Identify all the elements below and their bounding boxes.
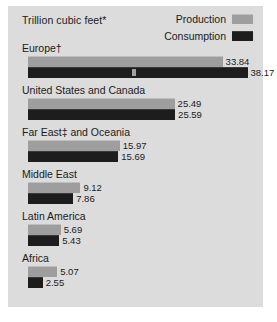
chart-group: Middle East9.127.86: [8, 168, 263, 204]
bar-production: [28, 98, 175, 109]
chart-header: Trillion cubic feet* Production Consumpt…: [8, 6, 263, 42]
chart-bar-row: 25.49: [8, 98, 263, 109]
legend-swatch-consumption-icon: [232, 31, 253, 41]
chart-group-label: Africa: [22, 252, 263, 264]
chart-group-label: Middle East: [22, 168, 263, 180]
chart-group-label: Far East‡ and Oceania: [22, 126, 263, 138]
chart-group: Africa5.072.55: [8, 252, 263, 288]
chart-group: Latin America5.695.43: [8, 210, 263, 246]
bar-value-label: 5.43: [62, 235, 81, 246]
bar-value-label: 25.49: [178, 98, 202, 109]
chart-bar-row: 15.97: [8, 140, 263, 151]
bar-value-label: 2.55: [46, 277, 65, 288]
bar-consumption: [28, 235, 59, 246]
bar-production: [28, 266, 57, 277]
chart-group-label: Europe†: [22, 42, 263, 54]
legend-item-production: Production: [128, 11, 253, 26]
bar-consumption: [28, 67, 248, 78]
chart-panel: Trillion cubic feet* Production Consumpt…: [8, 6, 263, 307]
legend-item-consumption: Consumption: [128, 28, 253, 43]
chart-bar-row: 5.69: [8, 224, 263, 235]
bar-value-label: 7.86: [76, 193, 95, 204]
bar-value-label: 38.17: [251, 67, 275, 78]
bar-consumption: [28, 151, 118, 162]
scan-artifact-speck: [132, 69, 136, 76]
legend-label-consumption: Consumption: [164, 30, 226, 42]
bar-production: [28, 140, 120, 151]
bar-consumption: [28, 277, 43, 288]
chart-group-label: Latin America: [22, 210, 263, 222]
bar-consumption: [28, 109, 175, 120]
chart-bar-row: 38.17: [8, 67, 263, 78]
bar-value-label: 5.07: [60, 266, 79, 277]
bar-production: [28, 56, 223, 67]
chart-plot-area: Europe†33.8438.17United States and Canad…: [8, 42, 263, 294]
bar-value-label: 25.59: [178, 109, 202, 120]
chart-bar-row: 5.43: [8, 235, 263, 246]
chart-bar-row: 15.69: [8, 151, 263, 162]
chart-bar-row: 7.86: [8, 193, 263, 204]
legend-swatch-production-icon: [232, 14, 253, 24]
bar-production: [28, 224, 61, 235]
bar-value-label: 15.97: [123, 140, 147, 151]
bar-value-label: 33.84: [226, 56, 250, 67]
legend-label-production: Production: [176, 13, 226, 25]
chart-group: Europe†33.8438.17: [8, 42, 263, 78]
chart-legend: Production Consumption: [128, 11, 253, 45]
chart-group: Far East‡ and Oceania15.9715.69: [8, 126, 263, 162]
chart-group: United States and Canada25.4925.59: [8, 84, 263, 120]
bar-value-label: 15.69: [121, 151, 145, 162]
chart-bar-row: 5.07: [8, 266, 263, 277]
chart-bar-row: 33.84: [8, 56, 263, 67]
chart-units-title: Trillion cubic feet*: [22, 14, 106, 26]
bar-value-label: 5.69: [64, 224, 83, 235]
chart-bar-row: 25.59: [8, 109, 263, 120]
bar-consumption: [28, 193, 73, 204]
chart-bar-row: 9.12: [8, 182, 263, 193]
bar-production: [28, 182, 80, 193]
chart-group-label: United States and Canada: [22, 84, 263, 96]
chart-bar-row: 2.55: [8, 277, 263, 288]
bar-value-label: 9.12: [83, 182, 102, 193]
